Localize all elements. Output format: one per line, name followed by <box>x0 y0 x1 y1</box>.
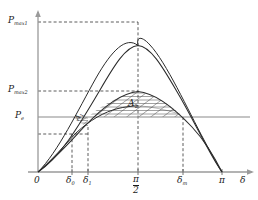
curve-pmax1-arc <box>38 46 222 173</box>
xtick-label-deltam: δm <box>177 176 187 185</box>
xtick-label-delta1: δ1 <box>83 176 92 185</box>
power-angle-figure: Pmax1 Pmax2 Pe 0 δ0 δ1 π 2 δm π δ A1 A2 <box>0 0 258 200</box>
x-axis-label: δ <box>240 176 245 185</box>
xtick-label-halfpi: π 2 <box>133 175 139 195</box>
xtick-label-pi: π <box>219 176 225 185</box>
level-label-pmax1: Pmax1 <box>8 16 28 25</box>
level-label-pmax2: Pmax2 <box>8 85 28 94</box>
area-label-a2: A2 <box>128 99 138 108</box>
vertical-dashed-lines <box>72 22 183 172</box>
xtick-label-zero: 0 <box>34 176 40 185</box>
xtick-label-delta0: δ0 <box>66 176 75 185</box>
level-label-pe: Pe <box>15 111 24 120</box>
